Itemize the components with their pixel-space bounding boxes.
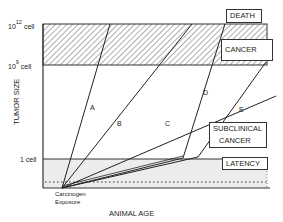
curve-label-d: D [203,89,208,96]
subclinical-cancer-box: SUBCLINICAL CANCER [209,122,267,148]
tick-10-12: 1012 cell [8,22,34,30]
x-axis-title: ANIMAL AGE [109,210,154,218]
curve-label-c: C [165,120,170,127]
death-label-box: DEATH [226,9,262,23]
y-axis-title: TUMOR SIZE [13,79,21,125]
curve-label-b: B [117,120,122,127]
tick-1-cell: 1 cell [20,156,36,163]
subclinical-line1: SUBCLINICAL [213,125,263,133]
origin-label-line1: Carcinogen [55,191,86,197]
curve-label-e: E [239,106,244,113]
tick-10-9: 109 cell [8,62,31,70]
cancer-label-box: CANCER [221,39,273,61]
latency-label-box: LATENCY [222,157,268,170]
curve-label-a: A [90,104,95,111]
subclinical-line2: CANCER [213,137,263,145]
origin-label-line2: Exposure [55,199,80,205]
